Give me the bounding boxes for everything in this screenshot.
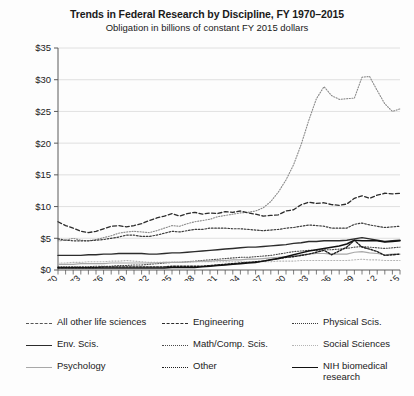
legend-line-swatch-icon xyxy=(292,362,318,374)
legend-item-label: Env. Scis. xyxy=(57,338,99,350)
y-tick-label: $15 xyxy=(35,169,51,180)
x-tick-label: 1973 xyxy=(61,273,82,281)
y-tick-label: $25 xyxy=(35,106,51,117)
chart-subtitle: Obligation in billions of constant FY 20… xyxy=(0,22,414,33)
legend-item-label: Social Sciences xyxy=(323,338,390,350)
legend-line-swatch-icon xyxy=(292,318,318,330)
legend-item[interactable]: Psychology xyxy=(26,360,162,380)
series-line xyxy=(58,77,400,241)
legend-line-swatch-icon xyxy=(162,340,188,352)
legend-item[interactable]: Physical Scis. xyxy=(292,316,414,336)
legend-line-swatch-icon xyxy=(292,340,318,352)
legend-line-swatch-icon xyxy=(26,318,52,330)
legend-item[interactable]: Engineering xyxy=(162,316,292,336)
legend-item-label: Math/Comp. Scis. xyxy=(193,338,268,350)
legend-item-label: All other life sciences xyxy=(57,316,146,328)
y-tick-label: $10 xyxy=(35,201,51,212)
x-tick-label: 2003 xyxy=(289,273,310,281)
x-tick-label: 1997 xyxy=(243,273,264,281)
legend-column-1: All other life sciencesEnv. Scis.Psychol… xyxy=(26,316,162,382)
x-tick-label: 1985 xyxy=(152,273,173,281)
legend-column-3: Physical Scis.Social SciencesNIH biomedi… xyxy=(292,316,414,382)
legend-column-2: EngineeringMath/Comp. Scis.Other xyxy=(162,316,292,382)
chart-screenshot: Trends in Federal Research by Discipline… xyxy=(0,0,414,396)
series-line xyxy=(58,238,400,256)
y-tick-label: $20 xyxy=(35,138,51,149)
data-series-group xyxy=(58,77,400,269)
legend-line-swatch-icon xyxy=(162,362,188,374)
x-tick-label: 2015 xyxy=(380,273,401,281)
legend-item[interactable]: NIH biomedical research xyxy=(292,360,414,380)
x-tick-label: 2009 xyxy=(335,273,356,281)
x-tick-label: 2012 xyxy=(357,273,378,281)
y-tick-label: $35 xyxy=(35,42,51,53)
legend-item-label: Physical Scis. xyxy=(323,316,382,328)
plot-area: $0$5$10$15$20$25$30$35 19701973197619791… xyxy=(0,36,414,281)
legend-line-swatch-icon xyxy=(162,318,188,330)
x-tick-label: 1988 xyxy=(175,273,196,281)
x-tick-label: 1994 xyxy=(221,273,242,281)
legend-line-swatch-icon xyxy=(26,362,52,374)
y-tick-label: $5 xyxy=(40,233,51,244)
legend-item-label: Other xyxy=(193,360,217,372)
x-tick-label: 2000 xyxy=(266,273,287,281)
chart-title: Trends in Federal Research by Discipline… xyxy=(0,8,414,20)
legend-item[interactable]: Social Sciences xyxy=(292,338,414,358)
x-tick-label: 1979 xyxy=(107,273,128,281)
legend-item[interactable]: Env. Scis. xyxy=(26,338,162,358)
x-tick-label: 2006 xyxy=(312,273,333,281)
legend-item[interactable]: Other xyxy=(162,360,292,380)
x-tick-label: 1976 xyxy=(84,273,105,281)
x-tick-label: 1991 xyxy=(198,273,219,281)
y-tick-label: $30 xyxy=(35,74,51,85)
legend-item-label: Psychology xyxy=(57,360,106,372)
chart-legend: All other life sciencesEnv. Scis.Psychol… xyxy=(26,316,414,392)
legend-item-label: Engineering xyxy=(193,316,244,328)
y-tick-labels: $0$5$10$15$20$25$30$35 xyxy=(35,42,58,275)
legend-item[interactable]: All other life sciences xyxy=(26,316,162,336)
legend-line-swatch-icon xyxy=(26,340,52,352)
x-tick-label: 1982 xyxy=(129,273,150,281)
y-tick-label: $0 xyxy=(40,264,51,275)
line-chart-svg: $0$5$10$15$20$25$30$35 19701973197619791… xyxy=(0,36,414,281)
legend-item[interactable]: Math/Comp. Scis. xyxy=(162,338,292,358)
legend-item-label: NIH biomedical research xyxy=(323,360,414,382)
x-tick-labels: 1970197319761979198219851988199119941997… xyxy=(38,273,401,281)
